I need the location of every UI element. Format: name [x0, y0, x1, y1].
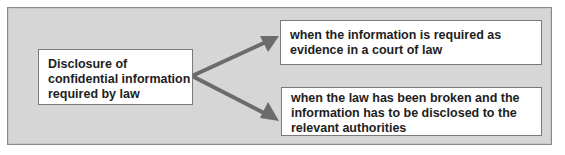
authorities-line-1: when the law has been broken and the — [291, 91, 541, 106]
source-line-1: Disclosure of — [48, 57, 192, 72]
source-box: Disclosure of confidential information r… — [38, 49, 193, 105]
court-line-2: evidence in a court of law — [290, 43, 541, 58]
target-box-relevant-authorities: when the law has been broken and the inf… — [281, 87, 542, 136]
authorities-line-3: relevant authorities — [291, 121, 541, 136]
authorities-line-2: information has to be disclosed to the — [291, 106, 541, 121]
source-line-3: required by law — [48, 87, 192, 102]
court-line-1: when the information is required as — [290, 28, 541, 43]
source-line-2: confidential information — [48, 72, 192, 87]
target-box-court-evidence: when the information is required as evid… — [280, 20, 542, 65]
